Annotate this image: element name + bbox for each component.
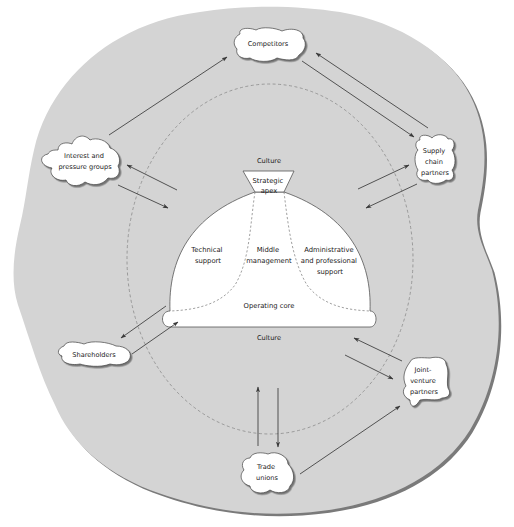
svg-text:Competitors: Competitors	[248, 40, 289, 48]
organisation-environment-diagram: Culture Culture Strategic apex Technical…	[0, 0, 514, 527]
operating-core-label: Operating core	[244, 302, 295, 310]
culture-label-bottom: Culture	[257, 334, 281, 342]
stakeholder-supply-chain-partners: Supply chain partners	[415, 135, 455, 184]
culture-label-top: Culture	[257, 157, 281, 165]
stakeholder-competitors: Competitors	[234, 28, 305, 62]
svg-text:Shareholders: Shareholders	[72, 351, 116, 359]
